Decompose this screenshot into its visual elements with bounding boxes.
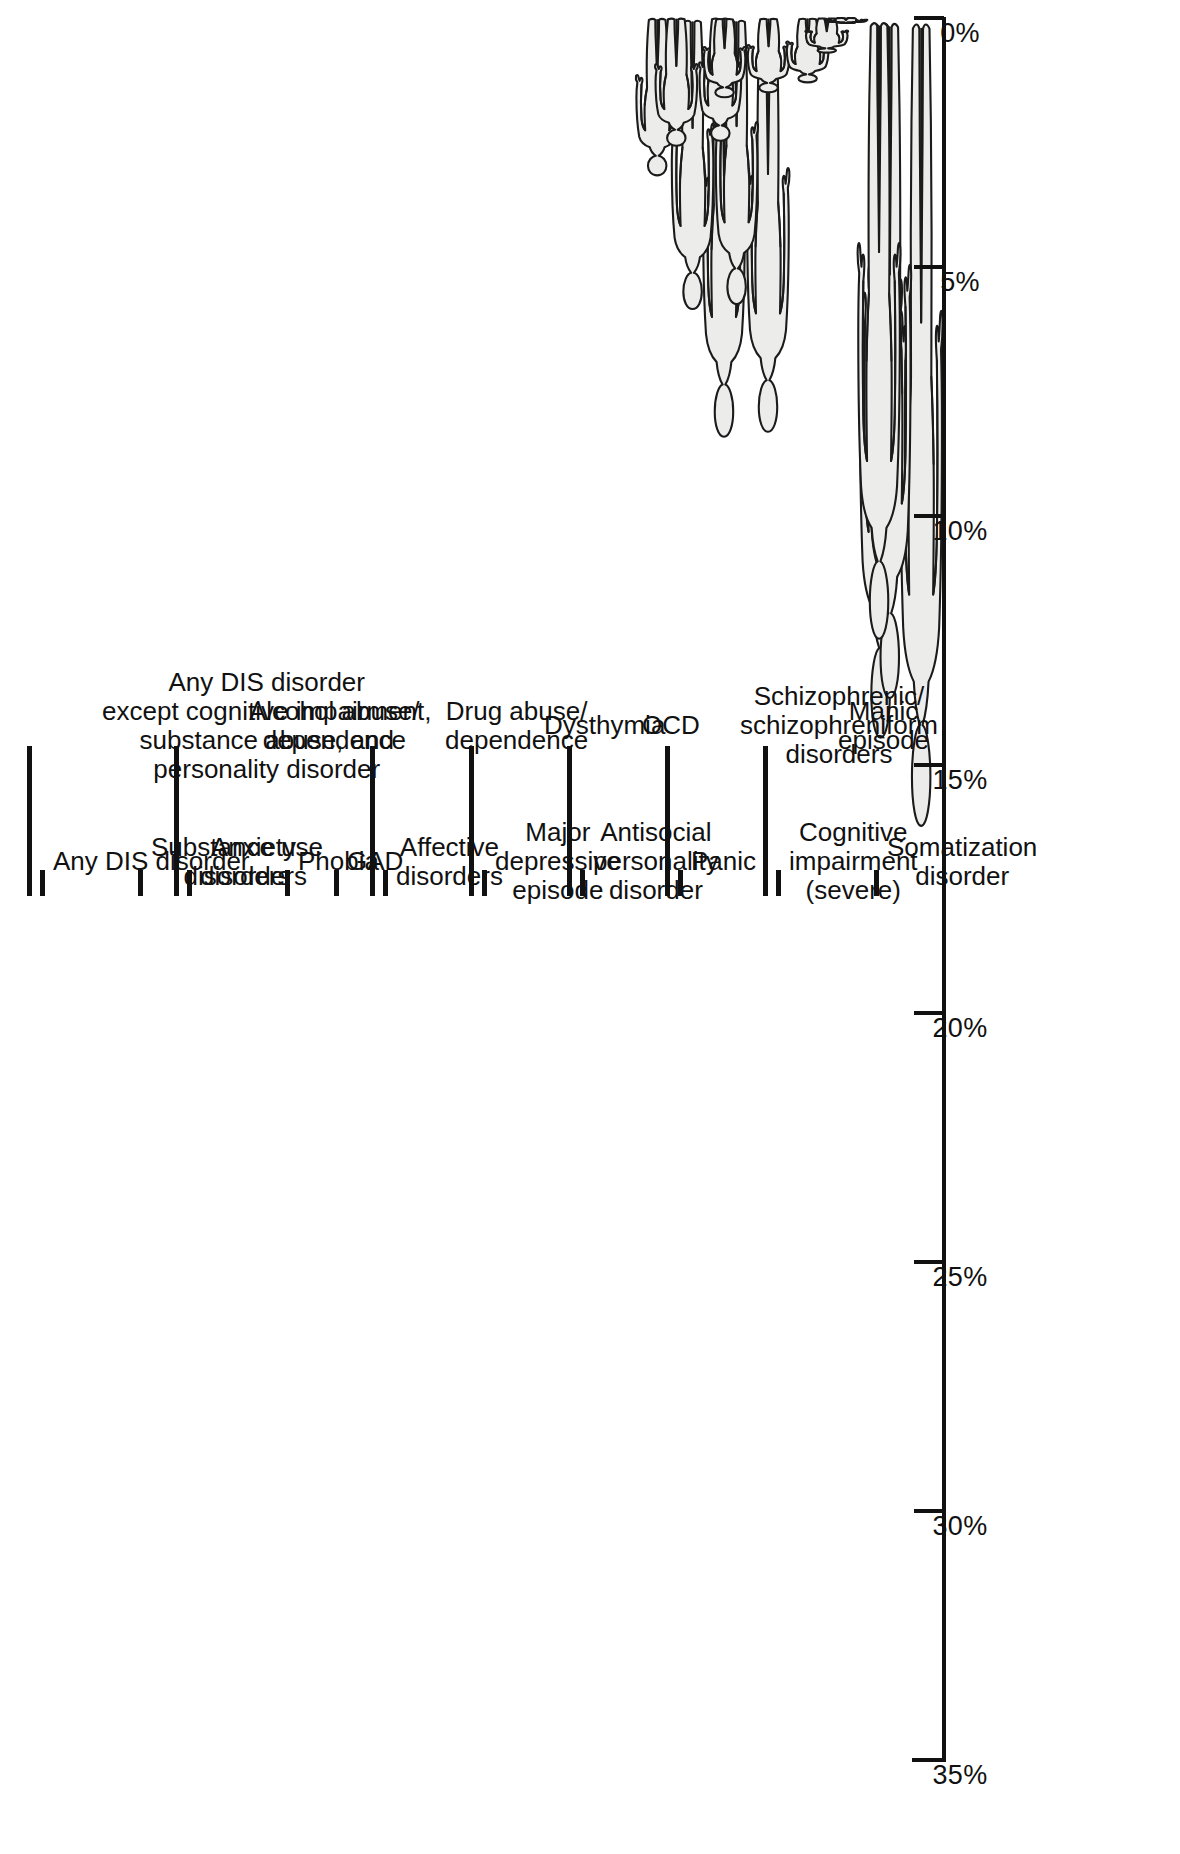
pictogram-figure: [864, 18, 910, 23]
pictogram-figure: [619, 18, 665, 142]
axis-tick-label: 0%: [940, 18, 980, 49]
category-label: Manic episode: [838, 697, 929, 755]
axis-tick-label: 25%: [933, 1262, 988, 1293]
pictogram-figure: [29, 18, 75, 1636]
category-label: Anxiety disorders: [200, 833, 307, 891]
pictogram-figure: [521, 18, 567, 177]
axis-tick-label: 20%: [933, 1013, 988, 1044]
axis-tick-label: 15%: [933, 765, 988, 796]
axis-tick-label: 30%: [933, 1511, 988, 1542]
category-label: Panic: [691, 847, 756, 876]
category-tick: [776, 870, 781, 896]
pictogram-figure: [668, 18, 714, 98]
pictogram-figure: [226, 18, 272, 705]
pictogram-chart: 35%30%25%20%15%10%5%0% Any DIS disorderA…: [0, 0, 1180, 1854]
pictogram-figure: [422, 18, 468, 312]
pictogram-figure: [79, 18, 125, 1292]
pictogram-figure: [570, 18, 616, 147]
pictogram-figures-layer: [0, 0, 942, 1854]
category-label: Alcohol abuse/ dependence: [249, 697, 420, 755]
category-label: OCD: [642, 711, 700, 740]
category-label: Somatization disorder: [887, 833, 1037, 891]
pictogram-figure: [324, 18, 370, 441]
pictogram-figure: [471, 18, 517, 307]
pictogram-figure: [717, 18, 763, 93]
pictogram-figure: [177, 18, 223, 745]
chart-rotated-frame: 35%30%25%20%15%10%5%0% Any DIS disorderA…: [0, 0, 1180, 1854]
category-tick: [27, 746, 32, 896]
category-tick: [40, 870, 45, 896]
pictogram-figure: [373, 18, 419, 436]
category-label: Affective disorders: [396, 833, 503, 891]
axis-tick-label: 10%: [933, 516, 988, 547]
pictogram-figure: [275, 18, 321, 645]
axis-tick-label: 5%: [940, 267, 980, 298]
axis-tick-label: 35%: [933, 1760, 988, 1791]
